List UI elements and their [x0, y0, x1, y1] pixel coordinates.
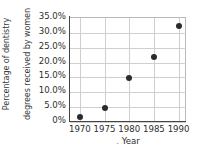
y-axis-tick-label: 5.0% [32, 101, 66, 110]
scatter-chart: Percentage of dentistry degrees received… [0, 0, 205, 154]
x-axis-line [69, 121, 186, 122]
gridline-horizontal [70, 107, 186, 108]
y-axis-tick-label: 20.0% [32, 57, 66, 66]
gridline-horizontal [70, 63, 186, 64]
plot-area [70, 17, 186, 121]
y-axis-tick-label: 35.0% [32, 12, 66, 21]
gridline-horizontal [70, 122, 186, 123]
y-axis-tick-labels: 0%5.0%10.0%15.0%20.0%25.0%30.0%35.0% [31, 0, 66, 140]
data-point [176, 23, 182, 29]
x-axis-title: . Year [70, 136, 186, 146]
y-axis-tick-label: 15.0% [32, 71, 66, 80]
gridline-horizontal [70, 92, 186, 93]
data-point [151, 54, 157, 60]
x-axis-tick-label: 1990 [162, 124, 196, 134]
y-axis-line [69, 16, 70, 122]
data-point [102, 105, 108, 111]
x-axis-title-dot: . [116, 136, 119, 146]
x-axis-title-text: Year [122, 136, 140, 146]
y-axis-tick-label: 25.0% [32, 42, 66, 51]
gridline-horizontal [70, 33, 186, 34]
gridline-vertical [154, 18, 155, 122]
gridline-horizontal [70, 48, 186, 49]
y-axis-title: Percentage of dentistry degrees received… [0, 0, 34, 128]
y-axis-title-text: Percentage of dentistry degrees received… [0, 0, 34, 128]
gridline-vertical [179, 18, 180, 122]
y-axis-title-line-1: Percentage of dentistry [1, 8, 12, 120]
y-axis-tick-label: 10.0% [32, 86, 66, 95]
y-axis-tick-label: 30.0% [32, 27, 66, 36]
data-point [77, 114, 83, 120]
gridline-vertical [80, 18, 81, 122]
gridline-vertical [129, 18, 130, 122]
y-axis-tick-label: 0% [32, 116, 66, 125]
